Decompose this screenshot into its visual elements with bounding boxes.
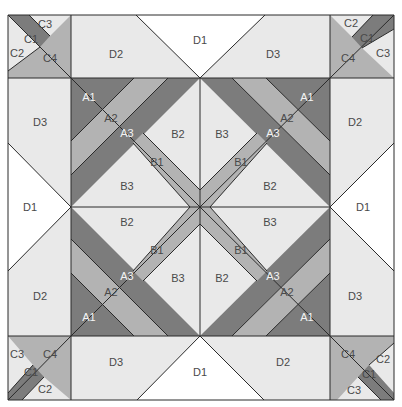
piece-label: D2	[33, 290, 47, 302]
piece-label: D2	[109, 48, 123, 60]
piece-label: D3	[33, 116, 47, 128]
piece-label: B1	[150, 244, 163, 256]
quilt-diagram: C3C1C2C4D2D1D3C2C1C3C4D3D1D2D2D1D3A1A2A3…	[0, 0, 402, 407]
piece-label: D1	[193, 34, 207, 46]
piece-label: A3	[266, 270, 279, 282]
piece-label: A1	[300, 311, 313, 323]
piece-label: D2	[276, 356, 290, 368]
piece-label: C2	[344, 17, 358, 29]
piece-label: B3	[215, 128, 228, 140]
piece-label: A2	[280, 112, 293, 124]
piece-label: A2	[104, 286, 117, 298]
piece-label: D3	[109, 356, 123, 368]
piece-label: C1	[24, 366, 38, 378]
piece-label: D3	[266, 48, 280, 60]
piece-label: B1	[234, 244, 247, 256]
piece-label: C1	[362, 368, 376, 380]
piece-label: A1	[82, 311, 95, 323]
piece-label: C4	[341, 348, 355, 360]
piece-label: C3	[38, 18, 52, 30]
piece-label: C4	[43, 52, 57, 64]
piece-label: C3	[10, 348, 24, 360]
piece-label: D1	[23, 201, 37, 213]
piece-label: A2	[104, 112, 117, 124]
piece-label: B3	[263, 216, 276, 228]
piece-label: C4	[43, 348, 57, 360]
piece-label: D2	[348, 116, 362, 128]
piece-label: C1	[360, 32, 374, 44]
piece-label: C2	[10, 47, 24, 59]
piece-label: A3	[120, 127, 133, 139]
piece-label: D1	[193, 366, 207, 378]
piece-label: C3	[376, 47, 390, 59]
piece-label: A2	[280, 286, 293, 298]
piece-label: A1	[300, 91, 313, 103]
piece-label: B3	[171, 272, 184, 284]
piece-label: B3	[120, 180, 133, 192]
piece-label: B1	[150, 156, 163, 168]
piece-label: C4	[341, 52, 355, 64]
piece-label: C2	[38, 383, 52, 395]
piece-label: B1	[234, 156, 247, 168]
piece-label: A3	[266, 127, 279, 139]
piece-label: A3	[120, 270, 133, 282]
piece-label: B2	[263, 180, 276, 192]
piece-label: B2	[171, 128, 184, 140]
piece-label: A1	[82, 91, 95, 103]
piece-label: C1	[24, 33, 38, 45]
piece-label: C2	[376, 353, 390, 365]
piece-label: C3	[347, 384, 361, 396]
piece-label: D1	[356, 201, 370, 213]
piece-label: B2	[215, 272, 228, 284]
piece-label: B2	[120, 216, 133, 228]
piece-label: D3	[348, 290, 362, 302]
